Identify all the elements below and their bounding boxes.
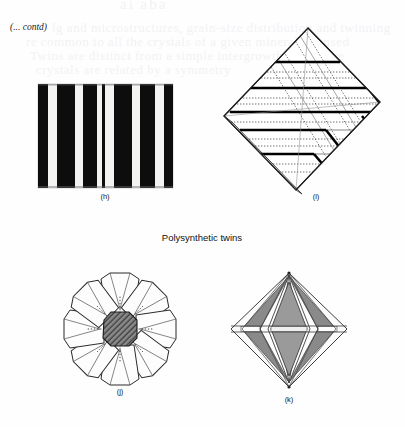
j-rosette: [64, 273, 176, 385]
h-top-edge: [38, 84, 173, 86]
page-canvas: ai aba lg and microstructures, grain-siz…: [0, 0, 405, 427]
figure-h-caption: (h): [77, 192, 133, 201]
figure-j: [61, 270, 179, 388]
continuation-note: (... contd): [10, 22, 47, 32]
k-equatorial-band: [231, 326, 347, 332]
figure-j-svg: [61, 270, 179, 388]
figure-h: [37, 83, 174, 189]
figure-i: [222, 26, 382, 194]
k-bipyramid: [231, 271, 347, 388]
bleed-text-top: ai aba: [120, 0, 167, 13]
figure-j-caption: (j): [92, 387, 148, 396]
k-bottom-apex: [287, 385, 290, 388]
h-bottom-edge: [38, 186, 173, 188]
bleed-text-line4: crystals are related by a symmetry: [36, 62, 231, 78]
k-top-apex: [287, 271, 290, 274]
figure-k-caption: (k): [261, 395, 317, 404]
figure-i-caption: (i): [288, 192, 344, 201]
j-core-octagon: [103, 312, 137, 346]
section-title-polysynthetic-twins: Polysynthetic twins: [132, 232, 272, 243]
figure-k: [228, 270, 350, 390]
figure-k-svg: [228, 270, 350, 390]
figure-h-svg: [37, 83, 174, 189]
figure-i-svg: [222, 26, 382, 194]
